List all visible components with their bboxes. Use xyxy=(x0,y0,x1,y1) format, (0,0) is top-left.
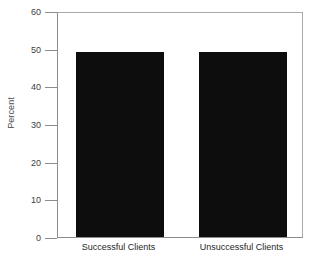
x-axis-label: Successful Clients xyxy=(82,242,156,252)
plot-frame xyxy=(57,12,303,238)
y-tick-mark xyxy=(45,238,57,239)
plot-area xyxy=(58,13,302,237)
y-tick-mark xyxy=(45,125,57,126)
y-tick-label: 30 xyxy=(0,120,41,130)
y-tick-label: 10 xyxy=(0,195,41,205)
y-tick-mark xyxy=(45,12,57,13)
y-tick-label: 60 xyxy=(0,7,41,17)
y-tick-mark xyxy=(45,163,57,164)
y-tick-mark xyxy=(45,200,57,201)
bar-chart: Percent 6050403020100 Successful Clients… xyxy=(0,0,315,262)
y-tick-label: 0 xyxy=(0,233,41,243)
bar xyxy=(199,52,287,237)
y-tick-label: 40 xyxy=(0,82,41,92)
y-tick-mark xyxy=(45,50,57,51)
bar xyxy=(76,52,164,237)
y-tick-label: 20 xyxy=(0,158,41,168)
y-tick-mark xyxy=(45,87,57,88)
y-tick-label: 50 xyxy=(0,45,41,55)
x-axis-label: Unsuccessful Clients xyxy=(200,242,284,252)
